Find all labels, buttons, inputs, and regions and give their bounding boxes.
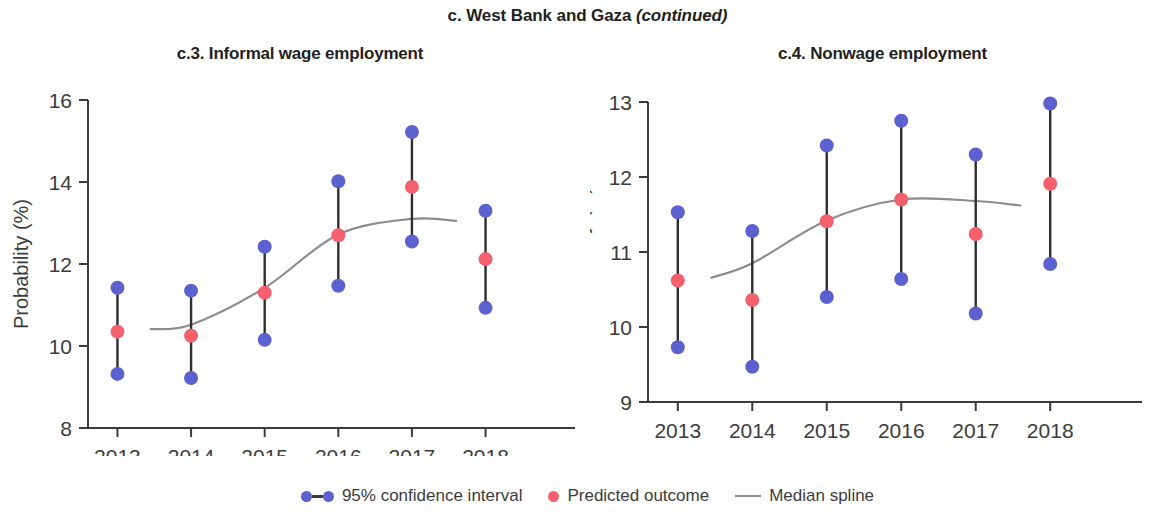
legend-label-median-spline: Median spline [769, 486, 874, 506]
y-axis-tick-label: 14 [49, 171, 73, 194]
x-axis-tick-label: 2018 [462, 445, 509, 456]
x-axis-tick-label: 2014 [168, 445, 215, 456]
confidence-interval-upper-point [671, 205, 685, 219]
predicted-outcome-point [894, 193, 908, 207]
confidence-interval-lower-point [405, 234, 419, 248]
predicted-outcome-point [969, 227, 983, 241]
confidence-interval-upper-point [820, 139, 834, 153]
confidence-interval-upper-point [479, 204, 493, 218]
predicted-outcome-point [1043, 177, 1057, 191]
confidence-interval-lower-point [258, 333, 272, 347]
confidence-interval-lower-point [820, 290, 834, 304]
median-spline-icon [735, 495, 761, 498]
x-axis-tick-label: 2014 [729, 419, 776, 442]
x-axis-tick-label: 2015 [803, 419, 850, 442]
y-axis-tick-label: 8 [60, 417, 72, 440]
confidence-interval-upper-point [184, 284, 198, 298]
confidence-interval-lower-point [479, 301, 493, 315]
confidence-interval-upper-point [745, 224, 759, 238]
x-axis-tick-label: 2016 [878, 419, 925, 442]
y-axis-tick-label: 9 [620, 391, 632, 414]
y-axis-title: Probability (%) [10, 199, 32, 329]
y-axis-tick-label: 12 [609, 166, 632, 189]
confidence-interval-upper-point [969, 148, 983, 162]
predicted-outcome-point [258, 286, 272, 300]
figure-title-text: c. West Bank and Gaza [448, 6, 636, 25]
chart-legend: 95% confidence interval Predicted outcom… [0, 478, 1175, 514]
confidence-interval-lower-point [969, 307, 983, 321]
confidence-interval-lower-point [184, 371, 198, 385]
predicted-outcome-point [331, 228, 345, 242]
confidence-interval-lower-point [110, 367, 124, 381]
x-axis-tick-label: 2013 [654, 419, 701, 442]
confidence-interval-lower-point [671, 340, 685, 354]
predicted-outcome-point [479, 252, 493, 266]
x-axis-tick-label: 2016 [315, 445, 362, 456]
legend-item-confidence-interval: 95% confidence interval [301, 486, 523, 506]
legend-label-predicted-outcome: Predicted outcome [567, 486, 709, 506]
confidence-interval-lower-point [1043, 257, 1057, 271]
predicted-outcome-icon [548, 491, 559, 502]
chart-plot-c3: 810121416Probability (%)2013201420152016… [0, 36, 600, 456]
confidence-interval-upper-point [258, 240, 272, 254]
figure-title-continued: (continued) [636, 6, 727, 25]
predicted-outcome-point [184, 329, 198, 343]
confidence-interval-upper-point [1043, 97, 1057, 111]
legend-item-predicted-outcome: Predicted outcome [548, 486, 709, 506]
x-axis-tick-label: 2013 [94, 445, 141, 456]
predicted-outcome-point [820, 214, 834, 228]
confidence-interval-icon [301, 491, 334, 502]
confidence-interval-lower-point [894, 272, 908, 286]
confidence-interval-lower-point [745, 360, 759, 374]
figure-root: c. West Bank and Gaza (continued) c.3. I… [0, 0, 1175, 514]
x-axis-tick-label: 2017 [952, 419, 999, 442]
y-axis-tick-label: 11 [610, 241, 632, 264]
legend-label-confidence-interval: 95% confidence interval [342, 486, 523, 506]
y-axis-tick-label: 12 [49, 253, 72, 276]
y-axis-tick-label: 10 [609, 316, 632, 339]
figure-title: c. West Bank and Gaza (continued) [0, 6, 1175, 26]
x-axis-tick-label: 2018 [1027, 419, 1074, 442]
confidence-interval-upper-point [110, 281, 124, 295]
confidence-interval-upper-point [405, 125, 419, 139]
predicted-outcome-point [405, 180, 419, 194]
y-axis-title: Probability (%) [590, 187, 592, 317]
chart-panel-c3: c.3. Informal wage employment 810121416P… [0, 36, 600, 514]
chart-plot-c4: 910111213Probability (%)2013201420152016… [590, 36, 1175, 456]
predicted-outcome-point [671, 274, 685, 288]
y-axis-tick-label: 13 [609, 91, 632, 114]
chart-panel-c4: c.4. Nonwage employment 910111213Probabi… [590, 36, 1175, 514]
x-axis-tick-label: 2015 [241, 445, 288, 456]
x-axis-tick-label: 2017 [389, 445, 436, 456]
predicted-outcome-point [745, 293, 759, 307]
y-axis-tick-label: 10 [49, 335, 72, 358]
confidence-interval-lower-point [331, 279, 345, 293]
legend-item-median-spline: Median spline [735, 486, 874, 506]
y-axis-tick-label: 16 [49, 89, 72, 112]
predicted-outcome-point [110, 325, 124, 339]
confidence-interval-upper-point [331, 174, 345, 188]
confidence-interval-upper-point [894, 114, 908, 128]
